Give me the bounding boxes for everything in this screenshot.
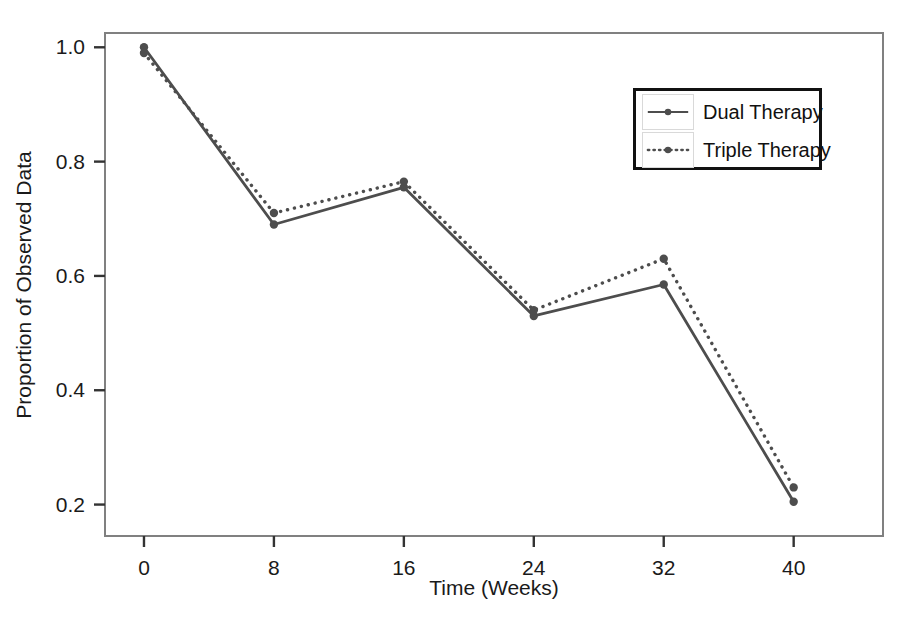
legend-key-solid-line-icon <box>642 94 694 130</box>
x-axis-title: Time (Weeks) <box>429 576 559 600</box>
x-tick-label: 16 <box>392 556 415 580</box>
legend-key-dotted-line-icon <box>642 132 694 168</box>
y-axis-title: Proportion of Observed Data <box>12 151 36 418</box>
x-tick-label: 40 <box>782 556 805 580</box>
y-tick-label: 0.2 <box>5 493 85 517</box>
y-tick-label: 1.0 <box>5 35 85 59</box>
legend-label-dual-therapy: Dual Therapy <box>703 101 823 124</box>
x-tick-label: 0 <box>138 556 150 580</box>
x-tick-label: 32 <box>652 556 675 580</box>
legend-entry-dual-therapy: Dual Therapy <box>636 93 819 131</box>
line-chart-figure: 0.20.40.60.81.0 0816243240 Time (Weeks) … <box>0 0 913 628</box>
legend-entry-triple-therapy: Triple Therapy <box>636 131 819 169</box>
chart-legend: Dual Therapy Triple Therapy <box>633 88 822 170</box>
legend-label-triple-therapy: Triple Therapy <box>703 139 831 162</box>
x-tick-label: 8 <box>268 556 280 580</box>
